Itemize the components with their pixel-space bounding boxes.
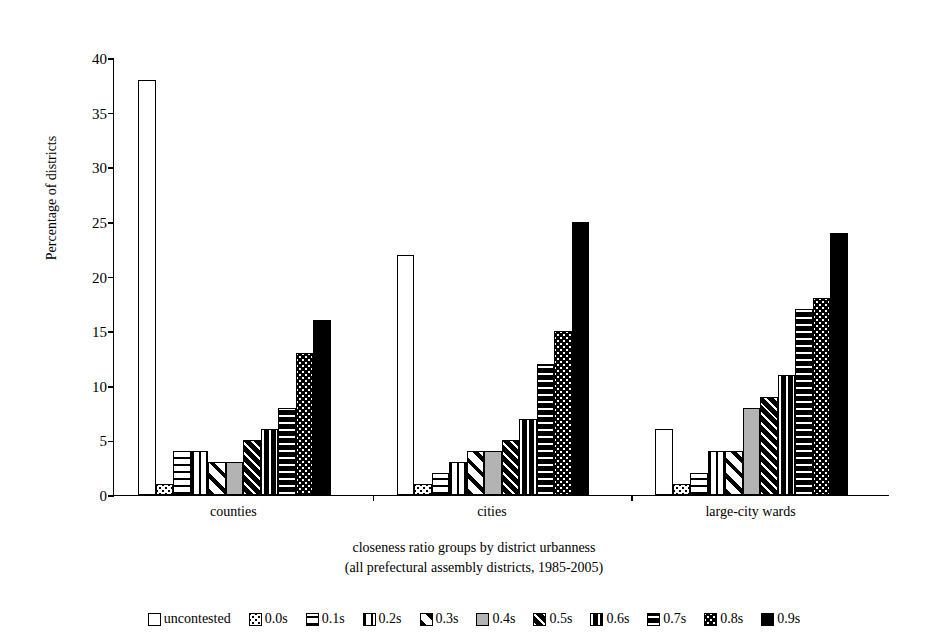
legend-item-09s[interactable]: 0.9s [761, 612, 800, 626]
bar-09s-large-city-wards [830, 233, 848, 495]
bar-group [631, 59, 890, 495]
bar-08s-large-city-wards [813, 298, 831, 495]
legend-label: 0.6s [606, 612, 629, 626]
bar-00s-counties [156, 484, 174, 495]
bar-06s-cities [519, 419, 537, 495]
legend-item-00s[interactable]: 0.0s [249, 612, 288, 626]
bar-00s-cities [414, 484, 432, 495]
legend-item-08s[interactable]: 0.8s [704, 612, 743, 626]
x-tick-mark [631, 495, 633, 501]
bar-03s-counties [208, 462, 226, 495]
y-tick-mark [108, 495, 114, 497]
bar-group [114, 59, 373, 495]
bar-05s-counties [243, 440, 261, 495]
y-tick-label: 5 [100, 434, 108, 449]
bar-02s-cities [449, 462, 467, 495]
y-axis-title: Percentage of districts [44, 88, 60, 308]
y-tick-label: 35 [92, 106, 107, 121]
legend-label: uncontested [164, 612, 231, 626]
bar-04s-large-city-wards [743, 408, 761, 495]
x-axis-title-line2: (all prefectural assembly districts, 198… [0, 558, 948, 578]
y-tick-label: 25 [92, 215, 107, 230]
legend-swatch-icon [704, 613, 717, 626]
legend-label: 0.9s [777, 612, 800, 626]
bar-09s-counties [313, 320, 331, 495]
bar-05s-large-city-wards [760, 397, 778, 495]
legend-item-05s[interactable]: 0.5s [533, 612, 572, 626]
legend-swatch-icon [476, 613, 489, 626]
x-group-label-cities: cities [402, 504, 582, 520]
legend-item-04s[interactable]: 0.4s [476, 612, 515, 626]
legend-swatch-icon [647, 613, 660, 626]
x-group-label-large-city-wards: large-city wards [661, 504, 841, 520]
legend-swatch-icon [533, 613, 546, 626]
bar-uncontested-large-city-wards [655, 429, 673, 495]
legend-item-06s[interactable]: 0.6s [590, 612, 629, 626]
bar-04s-cities [484, 451, 502, 495]
legend-item-03s[interactable]: 0.3s [420, 612, 459, 626]
chart-legend: uncontested0.0s0.1s0.2s0.3s0.4s0.5s0.6s0… [0, 612, 948, 626]
legend-swatch-icon [306, 613, 319, 626]
bar-03s-large-city-wards [725, 451, 743, 495]
bar-08s-cities [554, 331, 572, 495]
legend-swatch-icon [249, 613, 262, 626]
y-tick-label: 10 [92, 379, 107, 394]
legend-swatch-icon [761, 613, 774, 626]
bar-02s-counties [191, 451, 209, 495]
x-tick-mark [373, 495, 375, 501]
legend-label: 0.5s [549, 612, 572, 626]
bar-08s-counties [296, 353, 314, 495]
bar-09s-cities [572, 222, 590, 495]
y-tick-label: 40 [92, 52, 107, 67]
legend-label: 0.1s [322, 612, 345, 626]
legend-label: 0.2s [379, 612, 402, 626]
legend-label: 0.0s [265, 612, 288, 626]
legend-swatch-icon [363, 613, 376, 626]
bar-01s-counties [173, 451, 191, 495]
bar-07s-cities [537, 364, 555, 495]
legend-item-uncontested[interactable]: uncontested [148, 612, 231, 626]
bar-06s-counties [261, 429, 279, 495]
x-axis-title: closeness ratio groups by district urban… [0, 538, 948, 579]
x-axis-title-line1: closeness ratio groups by district urban… [0, 538, 948, 558]
bar-04s-counties [226, 462, 244, 495]
y-tick-label: 30 [92, 161, 107, 176]
y-tick-label: 0 [100, 489, 108, 504]
bar-group [373, 59, 632, 495]
bar-01s-cities [432, 473, 450, 495]
bar-chart: Percentage of districts 0510152025303540… [0, 0, 948, 644]
bar-03s-cities [467, 451, 485, 495]
bar-06s-large-city-wards [778, 375, 796, 495]
legend-swatch-icon [148, 613, 161, 626]
bar-00s-large-city-wards [673, 484, 691, 495]
legend-item-02s[interactable]: 0.2s [363, 612, 402, 626]
bar-uncontested-cities [397, 255, 415, 495]
plot-area: 0510152025303540 [113, 59, 889, 496]
legend-item-07s[interactable]: 0.7s [647, 612, 686, 626]
x-group-label-counties: counties [143, 504, 323, 520]
bar-02s-large-city-wards [708, 451, 726, 495]
y-tick-label: 20 [92, 270, 107, 285]
bar-05s-cities [502, 440, 520, 495]
bar-uncontested-counties [138, 80, 156, 495]
y-tick-label: 15 [92, 325, 107, 340]
legend-swatch-icon [420, 613, 433, 626]
bar-07s-large-city-wards [795, 309, 813, 495]
legend-label: 0.7s [663, 612, 686, 626]
bar-series-container [114, 59, 889, 495]
bar-01s-large-city-wards [690, 473, 708, 495]
legend-label: 0.3s [436, 612, 459, 626]
legend-label: 0.8s [720, 612, 743, 626]
legend-swatch-icon [590, 613, 603, 626]
legend-item-01s[interactable]: 0.1s [306, 612, 345, 626]
legend-label: 0.4s [492, 612, 515, 626]
bar-07s-counties [278, 408, 296, 495]
